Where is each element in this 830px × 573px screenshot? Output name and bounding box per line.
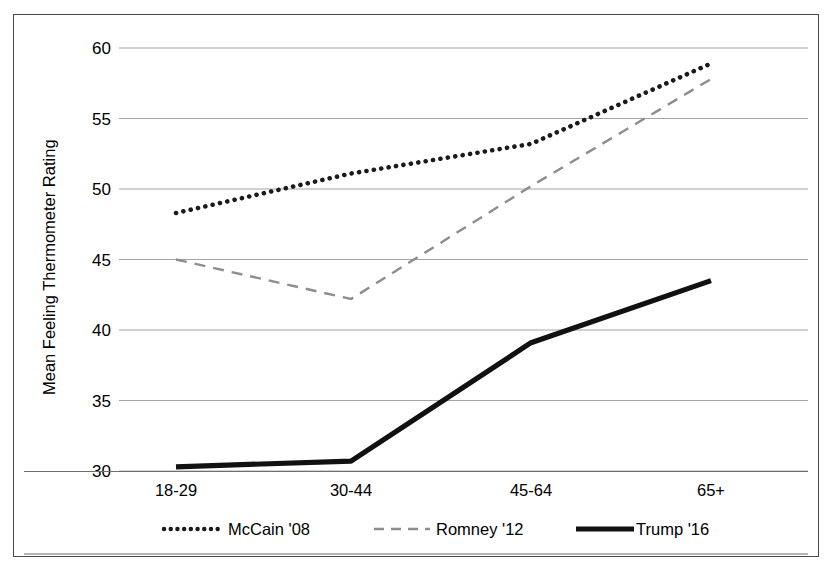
chart-legend: McCain '08 Romney '12 Trump '16 [164,520,709,538]
legend-label-mccain: McCain '08 [228,520,310,538]
legend-label-trump: Trump '16 [636,520,709,538]
y-tick-label: 45 [92,251,111,270]
x-axis-tick-labels: 18-29 30-44 45-64 65+ [155,481,725,499]
series-line-mccain [176,64,711,214]
line-chart-svg: 60 55 50 45 40 35 30 Mean Feeling Thermo… [14,15,820,558]
series-line-trump [176,281,711,467]
x-tick-label-45-64: 45-64 [510,481,552,499]
y-gridlines [119,48,808,471]
x-tick-label-30-44: 30-44 [330,481,372,499]
y-tick-label: 60 [92,39,111,58]
y-tick-label: 35 [92,392,111,411]
chart-figure-frame: 60 55 50 45 40 35 30 Mean Feeling Thermo… [13,14,819,557]
y-tick-label: 50 [92,180,111,199]
y-tick-label: 40 [92,321,111,340]
y-axis-tick-labels: 60 55 50 45 40 35 30 [92,39,111,481]
x-tick-label-18-29: 18-29 [155,481,197,499]
x-tick-label-65plus: 65+ [697,481,725,499]
legend-label-romney: Romney '12 [436,520,524,538]
y-axis-title: Mean Feeling Thermometer Rating [40,139,58,395]
y-tick-label: 55 [92,110,111,129]
chart-plot-container: 60 55 50 45 40 35 30 Mean Feeling Thermo… [14,15,820,558]
